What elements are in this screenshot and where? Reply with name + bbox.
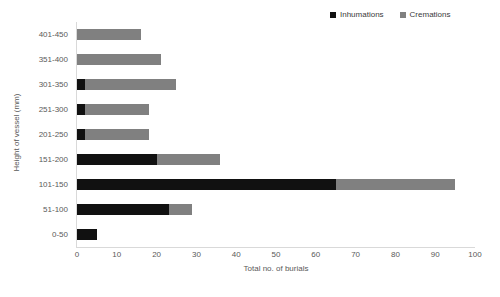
bar-track [77, 54, 161, 65]
bar-segment-inhumations [77, 129, 85, 140]
bar-segment-inhumations [77, 179, 336, 190]
burials-stacked-bar-chart: Inhumations Cremations 401-450351-400301… [0, 0, 500, 297]
plot-area [77, 22, 475, 247]
bar-row [77, 22, 475, 47]
bar-track [77, 104, 149, 115]
y-axis-tick-label: 51-100 [30, 197, 73, 222]
y-axis-tick-label: 301-350 [30, 72, 73, 97]
legend-label-inhumations: Inhumations [340, 10, 384, 19]
legend-entry-cremations: Cremations [400, 10, 451, 19]
bar-segment-cremations [85, 104, 149, 115]
bar-track [77, 129, 149, 140]
bar-segment-cremations [157, 154, 221, 165]
x-axis-tick-label: 70 [351, 250, 360, 259]
x-axis-tick-label: 40 [232, 250, 241, 259]
bar-row [77, 72, 475, 97]
y-axis-tick-labels: 401-450351-400301-350251-300201-250151-2… [30, 22, 73, 247]
bar-row [77, 197, 475, 222]
y-axis-tick-label: 201-250 [30, 122, 73, 147]
y-axis-tick-label: 151-200 [30, 147, 73, 172]
bar-group [77, 22, 475, 247]
y-axis-tick-label: 101-150 [30, 172, 73, 197]
bar-segment-cremations [77, 29, 141, 40]
x-axis-tick-label: 90 [431, 250, 440, 259]
bar-track [77, 204, 192, 215]
y-axis-tick-label: 0-50 [30, 222, 73, 247]
legend-label-cremations: Cremations [410, 10, 451, 19]
x-axis-tick-label: 10 [112, 250, 121, 259]
bar-row [77, 147, 475, 172]
x-axis-tick-labels: 0102030405060708090100 [77, 250, 475, 262]
x-axis-tick-label: 20 [152, 250, 161, 259]
bar-track [77, 179, 455, 190]
bar-segment-cremations [77, 54, 161, 65]
bar-row [77, 122, 475, 147]
bar-segment-inhumations [77, 204, 169, 215]
x-axis-title: Total no. of burials [77, 264, 475, 273]
bar-track [77, 229, 97, 240]
chart-legend: Inhumations Cremations [330, 10, 451, 19]
bar-segment-inhumations [77, 154, 157, 165]
y-axis-tick-label: 351-400 [30, 47, 73, 72]
x-axis-tick-label: 100 [468, 250, 481, 259]
bar-row [77, 97, 475, 122]
legend-entry-inhumations: Inhumations [330, 10, 384, 19]
bar-segment-inhumations [77, 104, 85, 115]
bar-track [77, 79, 176, 90]
legend-swatch-inhumations [330, 12, 336, 18]
bar-track [77, 29, 141, 40]
bar-segment-cremations [85, 79, 177, 90]
bar-row [77, 172, 475, 197]
x-axis-tick-label: 60 [311, 250, 320, 259]
legend-swatch-cremations [400, 12, 406, 18]
x-axis-line [76, 247, 475, 248]
y-axis-title: Height of vessel (mm) [12, 63, 21, 203]
bar-segment-cremations [169, 204, 193, 215]
y-axis-tick-label: 251-300 [30, 97, 73, 122]
bar-track [77, 154, 220, 165]
x-axis-tick-label: 0 [75, 250, 79, 259]
bar-segment-cremations [85, 129, 149, 140]
bar-segment-inhumations [77, 79, 85, 90]
x-axis-tick-label: 30 [192, 250, 201, 259]
bar-row [77, 47, 475, 72]
x-axis-tick-label: 50 [272, 250, 281, 259]
bar-segment-cremations [336, 179, 455, 190]
x-axis-tick-label: 80 [391, 250, 400, 259]
bar-row [77, 222, 475, 247]
bar-segment-inhumations [77, 229, 97, 240]
y-axis-tick-label: 401-450 [30, 22, 73, 47]
